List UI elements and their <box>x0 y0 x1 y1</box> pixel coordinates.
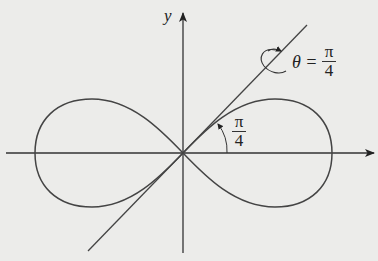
lemniscate-diagram <box>0 0 378 261</box>
angle-label-fraction: π 4 <box>232 114 246 149</box>
rotation-arrow-icon <box>261 49 286 73</box>
angle-label-den: 4 <box>235 133 244 149</box>
angle-label-num: π <box>235 114 244 130</box>
y-axis-label: y <box>164 6 172 26</box>
tangent-label-lhs: θ = <box>292 52 318 73</box>
angle-arc <box>218 124 227 153</box>
tangent-label-num: π <box>325 44 334 60</box>
tangent-label-fraction: π 4 <box>322 44 336 79</box>
tangent-label-den: 4 <box>325 63 334 79</box>
